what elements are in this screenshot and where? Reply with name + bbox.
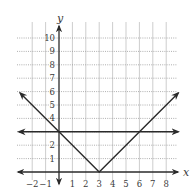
x-tick-label: 4 — [110, 179, 115, 189]
graph: −2−1123456781245678910 x y — [0, 0, 195, 194]
x-tick-label: 6 — [137, 179, 142, 189]
x-tick-label: −2 — [26, 179, 39, 189]
y-tick-label: 1 — [50, 154, 55, 164]
y-tick-label: 8 — [50, 60, 55, 70]
y-tick-label: 6 — [50, 87, 55, 97]
y-tick-label: 9 — [50, 46, 55, 56]
x-tick-label: 3 — [96, 179, 101, 189]
y-tick-label: 4 — [50, 113, 55, 123]
x-tick-label: 1 — [70, 179, 75, 189]
x-tick-label: 5 — [123, 179, 128, 189]
grid — [17, 22, 177, 180]
x-tick-label: −1 — [39, 179, 52, 189]
x-tick-label: 7 — [150, 179, 155, 189]
y-tick-label: 2 — [50, 140, 55, 150]
y-tick-label: 5 — [50, 100, 55, 110]
y-tick-label: 7 — [50, 73, 55, 83]
y-tick-label: 10 — [44, 33, 55, 43]
y-axis-label: y — [56, 12, 64, 25]
x-tick-label: 2 — [83, 179, 88, 189]
x-axis-label: x — [183, 166, 190, 179]
x-tick-label: 8 — [163, 179, 168, 189]
tick-labels: −2−1123456781245678910 — [26, 33, 169, 189]
